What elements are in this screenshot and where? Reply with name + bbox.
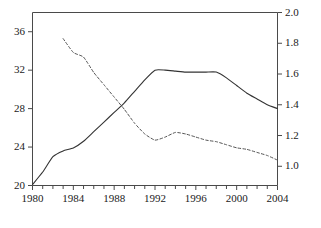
chart-figure: 20242832361.01.21.41.61.82.0198019841988… xyxy=(0,0,321,228)
axis-ticks xyxy=(28,13,282,191)
y-left-tick-label: 24 xyxy=(0,141,25,152)
y-right-tick-label: 1.0 xyxy=(285,160,315,171)
x-tick-label: 2000 xyxy=(221,193,253,204)
y-right-tick-label: 1.4 xyxy=(285,99,315,110)
y-right-tick-label: 2.0 xyxy=(285,7,315,18)
y-left-tick-label: 32 xyxy=(0,64,25,75)
x-tick-label: 2004 xyxy=(262,193,294,204)
x-tick-label: 1992 xyxy=(139,193,171,204)
axis-frame xyxy=(33,13,278,186)
x-tick-label: 1980 xyxy=(17,193,49,204)
data-series-group xyxy=(33,39,278,185)
y-right-tick-label: 1.2 xyxy=(285,130,315,141)
series-line-dashed-series xyxy=(63,39,277,160)
x-tick-label: 1984 xyxy=(57,193,89,204)
y-left-tick-label: 20 xyxy=(0,180,25,191)
y-right-tick-label: 1.8 xyxy=(285,37,315,48)
y-left-tick-label: 36 xyxy=(0,26,25,37)
y-left-tick-label: 28 xyxy=(0,103,25,114)
series-line-solid-series xyxy=(33,70,278,185)
x-tick-label: 1988 xyxy=(98,193,130,204)
x-tick-label: 1996 xyxy=(180,193,212,204)
y-right-tick-label: 1.6 xyxy=(285,68,315,79)
